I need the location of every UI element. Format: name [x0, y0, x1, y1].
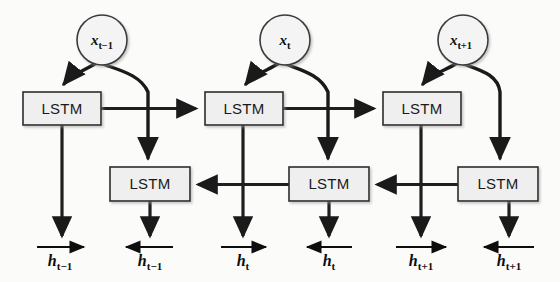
input-curve-x-t-to-backward	[283, 63, 328, 158]
output-label-text: ht	[237, 252, 250, 272]
input-curve-x-t-to-forward	[246, 63, 279, 84]
forward-lstm-cell-1[interactable]: LSTM	[23, 92, 101, 125]
output-h-t-plus-1-forward: ht+1	[396, 247, 446, 272]
input-x-t[interactable]: xt	[260, 15, 310, 65]
output-label-text: ht+1	[497, 252, 521, 272]
output-label-text: ht−1	[48, 252, 72, 272]
lstm-cell-label: LSTM	[401, 100, 442, 117]
forward-lstm-cell-3[interactable]: LSTM	[383, 92, 461, 125]
lstm-cell-label: LSTM	[223, 100, 264, 117]
backward-lstm-cell-3[interactable]: LSTM	[458, 167, 538, 201]
input-curve-x-t-plus-1-to-forward	[423, 63, 457, 84]
output-label-text: ht−1	[138, 252, 162, 272]
output-labels: ht−1 ht−1 ht ht ht+1	[37, 247, 534, 272]
forward-lstm-cell-2[interactable]: LSTM	[205, 92, 283, 125]
lstm-cell-label: LSTM	[308, 175, 349, 192]
backward-lstm-layer: LSTM LSTM LSTM	[110, 167, 538, 201]
lstm-cell-label: LSTM	[129, 175, 170, 192]
output-h-t-plus-1-backward: ht+1	[484, 247, 534, 272]
lstm-cell-label: LSTM	[477, 175, 518, 192]
input-curve-x-t-minus-1-to-backward	[100, 63, 148, 158]
output-h-t-minus-1-backward: ht−1	[126, 247, 173, 272]
input-curve-x-t-minus-1-to-forward	[64, 63, 96, 84]
lstm-cell-label: LSTM	[41, 100, 82, 117]
output-h-t-minus-1-forward: ht−1	[37, 247, 84, 272]
bilstm-diagram: xt−1 xt xt+1 LSTM LSTM LSTM	[0, 0, 560, 282]
backward-lstm-cell-1[interactable]: LSTM	[110, 167, 190, 201]
input-x-t-minus-1[interactable]: xt−1	[77, 15, 127, 65]
input-nodes: xt−1 xt xt+1	[77, 15, 488, 65]
output-label-text: ht	[323, 252, 336, 272]
diagram-canvas: xt−1 xt xt+1 LSTM LSTM LSTM	[0, 0, 560, 282]
input-curve-x-t-plus-1-to-backward	[461, 63, 500, 158]
input-x-t-plus-1[interactable]: xt+1	[438, 15, 488, 65]
forward-lstm-layer: LSTM LSTM LSTM	[23, 92, 461, 125]
backward-lstm-cell-2[interactable]: LSTM	[289, 167, 369, 201]
output-h-t-backward: ht	[307, 247, 352, 272]
output-h-t-forward: ht	[221, 247, 266, 272]
output-label-text: ht+1	[409, 252, 433, 272]
